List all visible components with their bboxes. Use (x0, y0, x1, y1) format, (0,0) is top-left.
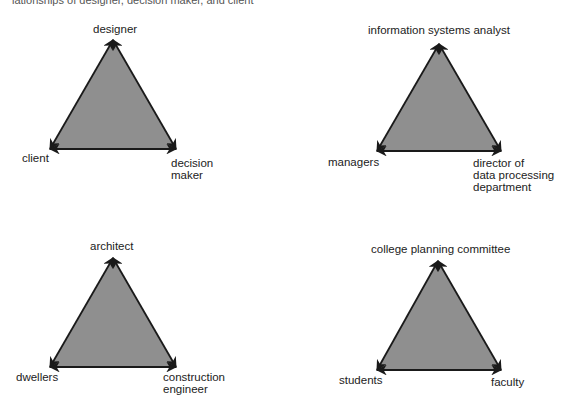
label-faculty: faculty (491, 376, 524, 389)
information-systems-triangle (377, 44, 501, 151)
triangle-group (50, 40, 501, 370)
architect-triangle (50, 258, 176, 367)
triangle-fill (377, 44, 501, 151)
label-information-systems-analyst: information systems analyst (368, 24, 510, 37)
designer-triangle (50, 40, 176, 149)
label-client: client (22, 152, 49, 165)
label-maker: maker (171, 169, 203, 182)
college-planning-triangle (377, 261, 501, 370)
label-department: department (473, 181, 531, 194)
triangle-diagrams (0, 0, 569, 405)
label-engineer: engineer (163, 383, 208, 396)
triangle-fill (50, 258, 176, 367)
label-architect: architect (90, 240, 133, 253)
triangle-fill (50, 40, 176, 149)
triangle-fill (377, 261, 501, 370)
label-designer: designer (93, 23, 137, 36)
label-students: students (339, 374, 382, 387)
label-dwellers: dwellers (16, 371, 58, 384)
label-college-planning-committee: college planning committee (371, 243, 510, 256)
label-managers: managers (328, 156, 379, 169)
